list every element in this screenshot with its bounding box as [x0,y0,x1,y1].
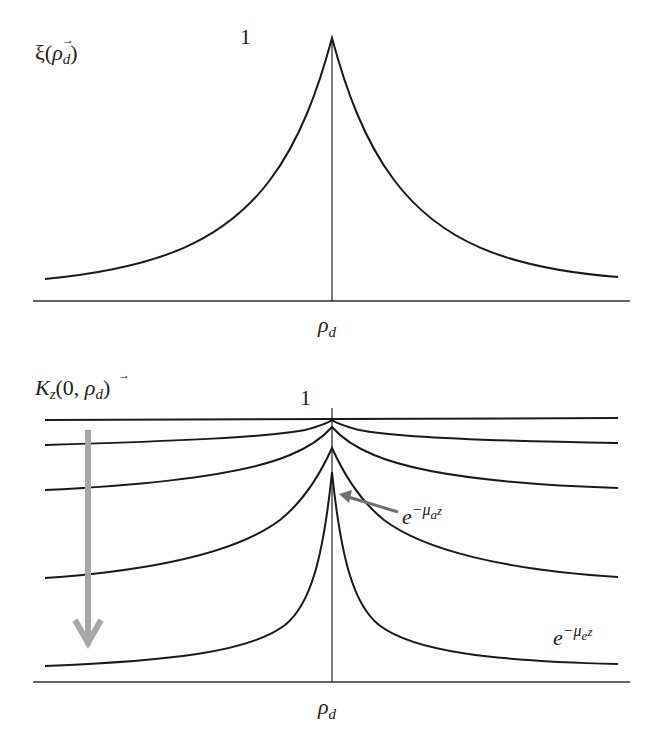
diagram-canvas: ξ(ρd) → 1 ρd Kz(0, ρd) → 1 e−μaz e−μez [0,0,646,748]
top-panel: ξ(ρd) → 1 ρd [33,24,630,340]
bottom-ylabel: Kz(0, ρd) [34,375,110,402]
absorption-pointer-head-icon [339,490,352,503]
bottom-panel: Kz(0, ρd) → 1 e−μaz e−μez ρd [33,368,630,722]
extinction-annotation: e−μez [553,622,592,650]
bottom-peak-label: 1 [300,385,311,410]
top-xlabel: ρd [317,312,337,340]
bottom-ylabel-vector-arrow: → [118,368,130,382]
absorption-annotation: e−μaz [402,501,442,529]
top-ylabel-vector-arrow: → [62,33,74,47]
bottom-xlabel: ρd [317,694,337,722]
top-peak-label: 1 [240,24,251,49]
